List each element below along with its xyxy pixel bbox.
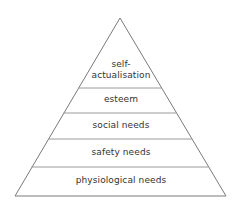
pyramid-shape [0,0,242,210]
pyramid-outline [15,18,226,196]
maslow-pyramid-diagram: self- actualisation esteem social needs … [0,0,242,210]
